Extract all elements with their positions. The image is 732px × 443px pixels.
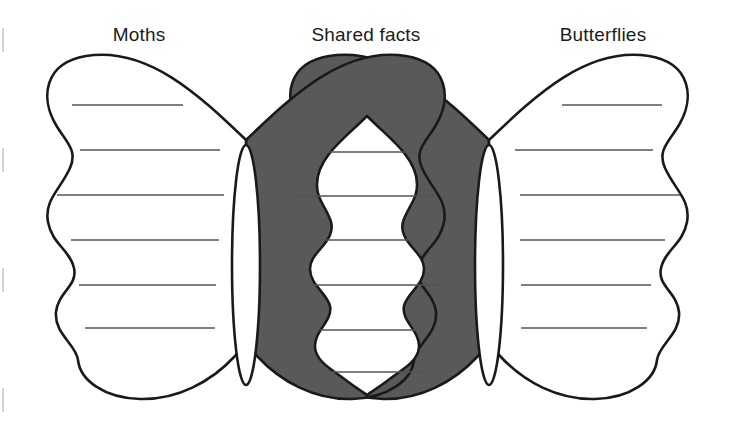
heading-left-moths: Moths [113,24,166,45]
heading-center-shared-facts: Shared facts [311,24,420,45]
left-wing-moths[interactable] [47,55,246,399]
right-body-lens [475,145,503,385]
right-wing-butterflies[interactable] [489,55,688,399]
worksheet-page: Moths Shared facts Butterflies [0,0,732,443]
intersection-write-area[interactable] [310,116,424,395]
heading-right-butterflies: Butterflies [560,24,647,45]
butterfly-venn-diagram: Moths Shared facts Butterflies [0,0,732,443]
left-body-lens [232,145,260,385]
intersection-region[interactable] [246,55,489,399]
